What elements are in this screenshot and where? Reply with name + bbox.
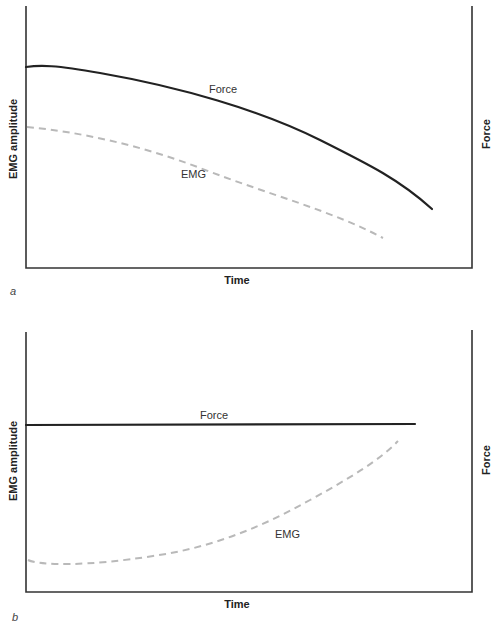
figure: Force EMG Time EMG amplitude Force a For… [0, 0, 503, 634]
panel-b-axes [26, 330, 472, 592]
panel-b-emg-label: EMG [275, 528, 300, 540]
panel-b-emg-curve [28, 441, 398, 564]
panel-a: Force EMG Time EMG amplitude Force a [7, 6, 492, 297]
panel-a-right-axis-title: Force [480, 119, 492, 149]
panel-b-right-axis-title: Force [480, 445, 492, 475]
panel-a-y-axis-title: EMG amplitude [7, 99, 19, 179]
panel-b-y-axis-title: EMG amplitude [7, 421, 19, 501]
panel-b-force-line [26, 424, 415, 425]
panel-b-letter: b [12, 611, 18, 623]
panel-b-x-axis-title: Time [224, 598, 249, 610]
panel-a-letter: a [10, 285, 16, 297]
panel-a-emg-label: EMG [181, 168, 206, 180]
panel-b: Force EMG Time EMG amplitude Force b [7, 330, 492, 623]
panel-a-force-label: Force [209, 83, 237, 95]
panel-a-x-axis-title: Time [224, 274, 249, 286]
panel-b-force-label: Force [200, 409, 228, 421]
